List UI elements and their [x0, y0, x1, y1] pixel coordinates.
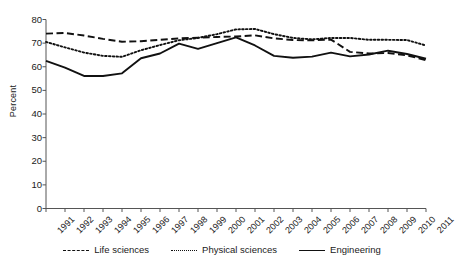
x-tick-label: 2002 [265, 215, 286, 236]
x-tick-label: 2007 [360, 215, 381, 236]
x-tick-label: 2004 [303, 215, 324, 236]
x-tick-label: 2001 [246, 215, 267, 236]
legend-line-swatch [299, 246, 325, 254]
x-tick-label: 1995 [132, 215, 153, 236]
x-tick-label: 1997 [170, 215, 191, 236]
x-tick-label: 1996 [151, 215, 172, 236]
legend-item[interactable]: Life sciences [63, 244, 149, 255]
legend-label: Engineering [330, 244, 381, 255]
x-tick-label: 1999 [208, 215, 229, 236]
x-tick-label: 2010 [417, 215, 438, 236]
x-tick-label: 1998 [189, 215, 210, 236]
x-tick-label: 2005 [322, 215, 343, 236]
chart-legend: Life sciencesPhysical sciencesEngineerin… [0, 244, 444, 255]
x-tick-label: 2003 [284, 215, 305, 236]
legend-item[interactable]: Physical sciences [171, 244, 277, 255]
x-tick-label: 2000 [227, 215, 248, 236]
legend-label: Physical sciences [202, 244, 277, 255]
x-tick-label: 2008 [379, 215, 400, 236]
x-tick-label: 2009 [398, 215, 419, 236]
x-tick-label: 1991 [56, 215, 77, 236]
x-tick-label: 1994 [113, 215, 134, 236]
legend-line-swatch [63, 246, 89, 254]
legend-label: Life sciences [94, 244, 149, 255]
x-tick-label: 2006 [341, 215, 362, 236]
legend-line-swatch [171, 246, 197, 254]
x-tick-label: 2011 [436, 215, 456, 235]
legend-item[interactable]: Engineering [299, 244, 381, 255]
x-tick-label: 1993 [94, 215, 115, 236]
x-tick-label: 1992 [75, 215, 96, 236]
